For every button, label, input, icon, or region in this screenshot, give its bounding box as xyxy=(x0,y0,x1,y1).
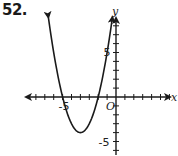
y-axis-label: y xyxy=(111,5,119,18)
coordinate-plane: x y O -5 5 -5 xyxy=(0,0,178,156)
x-axis-label: x xyxy=(171,91,178,104)
y-tick-label-5: 5 xyxy=(104,46,111,59)
axis-ticks xyxy=(36,26,170,151)
x-tick-label-neg5: -5 xyxy=(59,100,70,113)
y-tick-label-neg5: -5 xyxy=(99,136,110,149)
origin-label: O xyxy=(106,100,115,113)
parabola-curve xyxy=(48,17,112,132)
